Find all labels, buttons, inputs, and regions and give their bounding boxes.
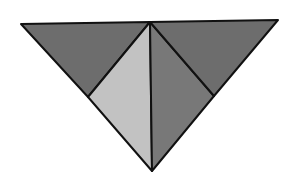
triangle-dissection-diagram — [0, 0, 304, 191]
pieces-group — [21, 20, 278, 171]
